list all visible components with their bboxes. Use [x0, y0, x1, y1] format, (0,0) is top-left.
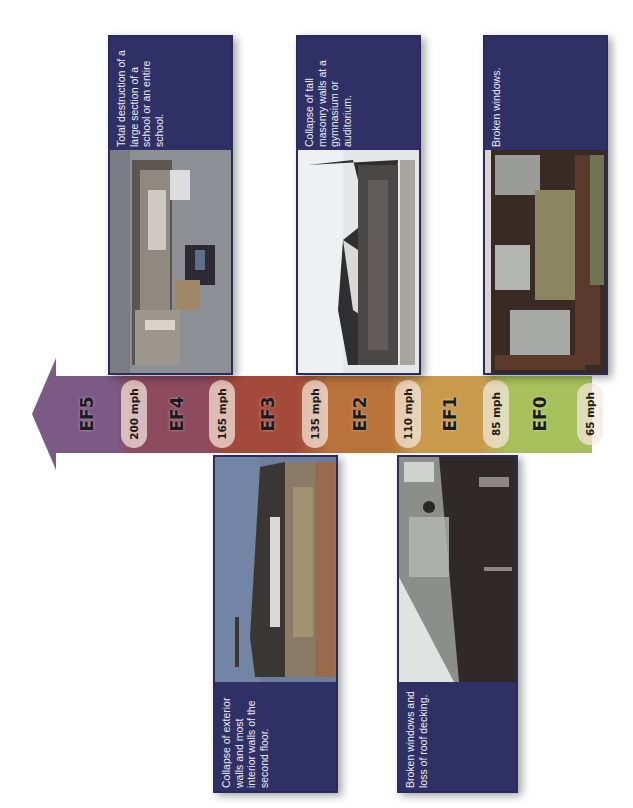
- ef0-caption: Broken windows.: [490, 43, 503, 147]
- ef2-caption: Collapse of tall masonry walls at a gymn…: [303, 43, 353, 147]
- ef3-label: EF3: [258, 396, 278, 431]
- ef1-label: EF1: [440, 396, 460, 431]
- ef0-label: EF0: [530, 396, 550, 431]
- collapsed-gymnasium-photo: [298, 150, 419, 373]
- ef1-damage-card: Broken windows and loss of roof decking.: [397, 455, 518, 793]
- damaged-roof-photo: [399, 457, 516, 682]
- threshold-200-mph: 200 mph: [121, 380, 147, 448]
- damaged-school-building-photo: [215, 457, 336, 682]
- ef3-caption: Collapse of exterior walls and most inte…: [220, 684, 270, 788]
- ef3-damage-card: Collapse of exterior walls and most inte…: [213, 455, 338, 793]
- ef4-caption: Total destruction of a large section of …: [115, 43, 165, 147]
- ef4-damage-card: Total destruction of a large section of …: [108, 35, 233, 375]
- threshold-85-mph: 85 mph: [483, 380, 509, 448]
- ef0-damage-card: Broken windows.: [483, 35, 608, 375]
- threshold-165-mph: 165 mph: [209, 380, 235, 448]
- brick-building-windows-photo: [485, 150, 606, 373]
- debris-field-photo: [110, 150, 231, 373]
- ef4-label: EF4: [167, 396, 187, 431]
- arrow-head-icon: [32, 358, 56, 470]
- ef2-damage-card: Collapse of tall masonry walls at a gymn…: [296, 35, 421, 375]
- threshold-65-mph: 65 mph: [577, 383, 603, 445]
- ef2-label: EF2: [350, 396, 370, 431]
- ef1-caption: Broken windows and loss of roof decking.: [404, 684, 429, 788]
- threshold-135-mph: 135 mph: [302, 380, 328, 448]
- ef5-label: EF5: [77, 396, 97, 431]
- threshold-110-mph: 110 mph: [395, 380, 421, 448]
